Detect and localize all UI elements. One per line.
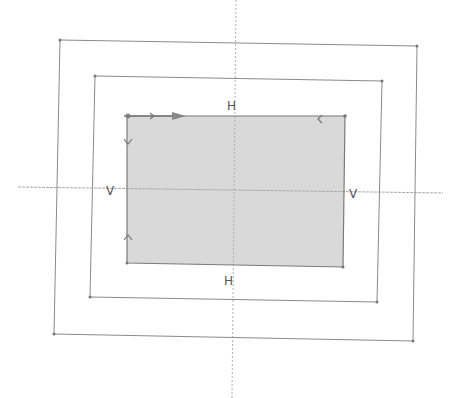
sketch-canvas: H H V V	[0, 0, 461, 398]
horizontal-constraint-bottom: H	[224, 274, 233, 288]
vertical-constraint-right: V	[349, 187, 358, 201]
vertical-constraint-left: V	[106, 184, 115, 198]
horizontal-constraint-top: H	[227, 99, 236, 113]
